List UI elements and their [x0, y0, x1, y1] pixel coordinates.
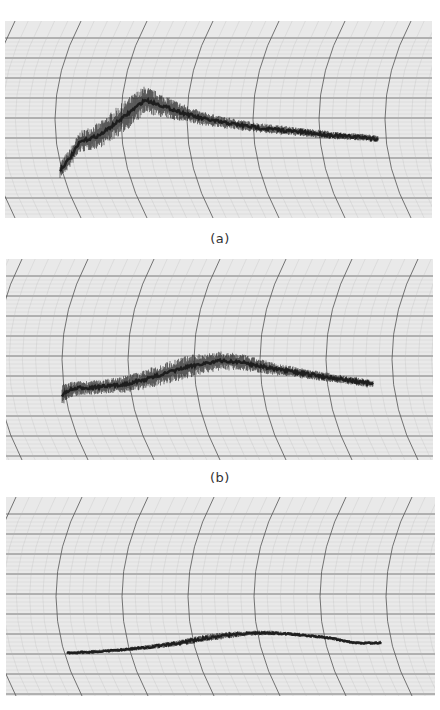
strip-chart-panel-a — [5, 21, 432, 218]
chart-grid-and-trace — [6, 259, 433, 460]
strip-chart-panel-c — [6, 497, 435, 696]
caption-a: (a) — [0, 231, 440, 246]
chart-grid-and-trace — [5, 21, 432, 218]
chart-grid-and-trace — [6, 497, 435, 696]
caption-b: (b) — [0, 470, 440, 485]
strip-chart-panel-b — [6, 259, 433, 460]
